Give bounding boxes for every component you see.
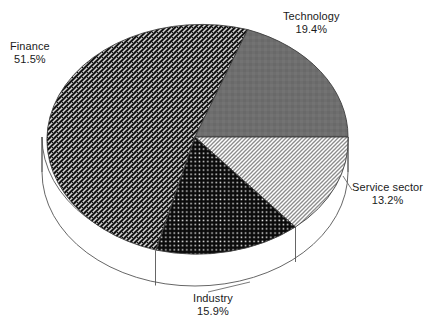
pie-chart-figure: Technology 19.4% Finance 51.5% Service s…	[0, 0, 446, 331]
slice-label-finance: Finance 51.5%	[10, 40, 50, 66]
slice-label-technology-value: 19.4%	[283, 23, 340, 36]
slice-label-finance-name: Finance	[10, 40, 50, 53]
pie-slices	[47, 24, 348, 254]
slice-label-service-sector-name: Service sector	[352, 181, 423, 194]
slice-label-service-sector: Service sector 13.2%	[352, 181, 423, 207]
slice-label-technology: Technology 19.4%	[283, 10, 340, 36]
slice-label-finance-value: 51.5%	[10, 53, 50, 66]
slice-label-industry: Industry 15.9%	[193, 292, 233, 318]
slice-label-service-sector-value: 13.2%	[352, 194, 423, 207]
slice-label-industry-value: 15.9%	[193, 305, 233, 318]
pie-chart-canvas	[0, 0, 446, 331]
slice-label-technology-name: Technology	[283, 10, 340, 23]
slice-label-industry-name: Industry	[193, 292, 233, 305]
